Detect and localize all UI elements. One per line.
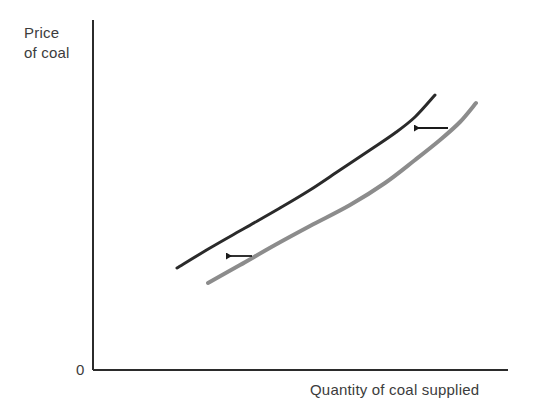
chart-canvas: 0 Price of coal Quantity of coal supplie…: [0, 0, 541, 414]
y-axis-label-line1: Price: [24, 24, 59, 41]
x-axis-label: Quantity of coal supplied: [310, 381, 479, 398]
supply-curve-figure: 0 Price of coal Quantity of coal supplie…: [0, 0, 541, 414]
shifted-supply-curve: [177, 95, 435, 268]
y-axis-label-line2: of coal: [24, 44, 70, 61]
origin-label: 0: [76, 361, 84, 378]
